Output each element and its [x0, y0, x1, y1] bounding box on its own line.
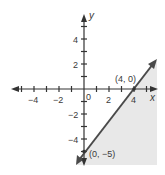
point-4-0 — [132, 87, 136, 91]
x-tick-label: 2 — [106, 95, 111, 105]
coordinate-plane: x y −4 −2 0 2 4 4 2 −2 −4 (4, 0) (0, −5) — [0, 0, 165, 175]
x-tick-label: −2 — [53, 95, 63, 105]
point-0-m5 — [82, 150, 86, 154]
x-axis-left-arrow-icon — [11, 86, 19, 92]
y-axis — [81, 18, 87, 162]
x-axis-label: x — [149, 92, 156, 103]
y-axis-label: y — [88, 10, 95, 21]
point-label-4-0: (4, 0) — [115, 74, 136, 84]
y-axis-up-arrow-icon — [81, 14, 87, 22]
y-tick-label: −4 — [68, 135, 78, 145]
y-tick-label: 4 — [73, 35, 78, 45]
y-tick-label: −2 — [68, 110, 78, 120]
y-tick-label: 2 — [73, 60, 78, 70]
point-label-0-m5: (0, −5) — [89, 149, 115, 159]
origin-label: 0 — [86, 92, 91, 102]
x-tick-label: −4 — [28, 95, 38, 105]
x-tick-label: 4 — [131, 95, 136, 105]
graph-figure: x y −4 −2 0 2 4 4 2 −2 −4 (4, 0) (0, −5) — [0, 0, 165, 175]
